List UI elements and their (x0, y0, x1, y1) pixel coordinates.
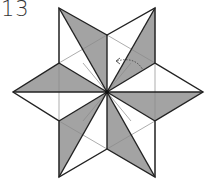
center-point (105, 90, 109, 94)
origami-star-diagram (0, 0, 206, 182)
